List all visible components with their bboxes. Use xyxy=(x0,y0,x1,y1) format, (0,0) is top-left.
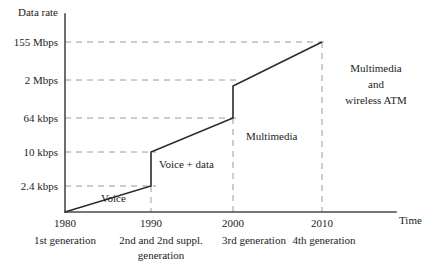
x-tick-2000: 2000 xyxy=(213,217,253,229)
caption-1st-generation: 1st generation xyxy=(22,234,108,246)
x-tick-1990: 1990 xyxy=(131,217,171,229)
y-tick-155mbps: 155 Mbps xyxy=(0,36,58,48)
x-tick-1980: 1980 xyxy=(45,217,85,229)
x-tick-2010: 2010 xyxy=(302,217,342,229)
caption-4th-generation: 4th generation xyxy=(281,234,367,246)
chart-figure: Data rate Time 155 Mbps 2 Mbps 64 kbps 1… xyxy=(0,0,431,265)
annotation-atm-line1: Multimedia xyxy=(328,62,424,74)
annotation-voice: Voice xyxy=(101,192,126,204)
caption-2nd-generation: 2nd and 2nd suppl. xyxy=(104,234,218,246)
y-tick-2mbps: 2 Mbps xyxy=(0,74,58,86)
annotation-atm-line2: and xyxy=(328,78,424,90)
annotation-voice-plus-data: Voice + data xyxy=(159,158,214,170)
y-tick-10kbps: 10 kbps xyxy=(0,146,58,158)
x-axis-title: Time xyxy=(399,214,422,226)
y-tick-64kbps: 64 kbps xyxy=(0,112,58,124)
y-tick-24kbps: 2.4 kbps xyxy=(0,180,58,192)
y-axis-title: Data rate xyxy=(18,6,58,18)
annotation-multimedia: Multimedia xyxy=(246,130,297,142)
annotation-atm-line3: wireless ATM xyxy=(328,94,424,106)
caption-2nd-generation-line2: generation xyxy=(104,249,218,261)
